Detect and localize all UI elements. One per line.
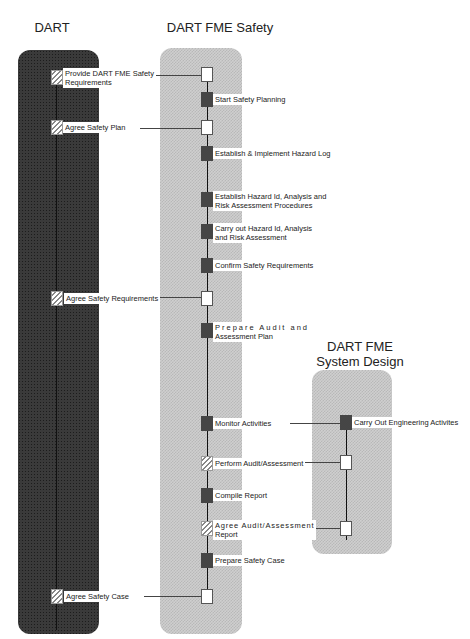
design-box-engineering-activities[interactable] bbox=[340, 415, 352, 430]
dart-lifeline bbox=[56, 70, 57, 630]
activity-box-agree-safety-requirements[interactable] bbox=[51, 291, 63, 306]
activity-label-agree-safety-plan: Agree Safety Plan bbox=[63, 122, 127, 133]
safety-box-confirm-requirements[interactable] bbox=[201, 258, 213, 273]
safety-box-agree-audit-report[interactable] bbox=[201, 521, 213, 536]
safety-label-carry-out-hazard-id: Carry out Hazard Id, Analysis and Risk A… bbox=[213, 223, 314, 243]
label-line: Requirements bbox=[65, 78, 154, 87]
safety-box-prepare-safety-case[interactable] bbox=[201, 553, 213, 568]
safety-box-start-safety-planning[interactable] bbox=[201, 92, 213, 107]
lane-title-design-line1: DART FME bbox=[320, 339, 400, 354]
activity-box-agree-safety-plan[interactable] bbox=[51, 120, 63, 135]
safety-label-start-safety-planning: Start Safety Planning bbox=[213, 94, 287, 105]
safety-label-perform-audit: Perform Audit/Assessment bbox=[213, 458, 305, 469]
safety-box-carry-out-hazard-id[interactable] bbox=[201, 224, 213, 239]
safety-label-confirm-requirements: Confirm Safety Requirements bbox=[213, 260, 315, 271]
safety-box-hazard-procedures[interactable] bbox=[201, 192, 213, 207]
label-line: and Risk Assessment bbox=[215, 233, 312, 242]
safety-box-prepare-audit-plan[interactable] bbox=[201, 323, 213, 338]
label-line: Establish Hazard Id, Analysis and bbox=[215, 192, 326, 201]
activity-label-agree-safety-requirements: Agree Safety Requirements bbox=[64, 293, 160, 304]
safety-box-safety-plan[interactable] bbox=[201, 120, 213, 135]
lane-dart bbox=[18, 50, 99, 634]
safety-box-monitor-activities[interactable] bbox=[201, 416, 213, 431]
connector-agree-safety-plan bbox=[140, 128, 201, 129]
safety-label-prepare-audit-plan: Prepare Audit and Assessment Plan bbox=[213, 322, 311, 342]
design-label-engineering-activities: Carry Out Engineering Activites bbox=[352, 417, 460, 428]
connector-agree-safety-case bbox=[144, 596, 201, 597]
label-line: Assessment Plan bbox=[215, 332, 309, 341]
activity-box-agree-safety-case[interactable] bbox=[51, 589, 63, 604]
safety-label-compile-report: Compile Report bbox=[213, 490, 269, 501]
lane-title-dart: DART bbox=[22, 20, 82, 35]
connector-monitor-activities bbox=[290, 423, 340, 424]
label-line: Agree Audit/Assessment bbox=[215, 521, 314, 530]
design-box-audit-report-input[interactable] bbox=[340, 521, 352, 536]
activity-label-agree-safety-case: Agree Safety Case bbox=[64, 591, 131, 602]
safety-label-monitor-activities: Monitor Activities bbox=[213, 418, 273, 429]
lane-title-design-line2: System Design bbox=[310, 354, 410, 369]
activity-box-provide-requirements[interactable] bbox=[51, 70, 63, 85]
label-line: Prepare Audit and bbox=[215, 323, 309, 332]
label-line: Carry out Hazard Id, Analysis bbox=[215, 224, 312, 233]
label-line: Report bbox=[215, 530, 314, 539]
safety-label-prepare-safety-case: Prepare Safety Case bbox=[213, 555, 287, 566]
safety-label-hazard-log: Establish & Implement Hazard Log bbox=[213, 148, 332, 159]
label-line: Provide DART FME Safety bbox=[65, 69, 154, 78]
safety-box-requirements-agreed[interactable] bbox=[201, 291, 213, 306]
activity-label-provide-requirements: Provide DART FME Safety Requirements bbox=[63, 68, 156, 88]
lane-title-safety: DART FME Safety bbox=[160, 20, 280, 35]
safety-label-hazard-procedures: Establish Hazard Id, Analysis and Risk A… bbox=[213, 191, 328, 211]
safety-label-agree-audit-report: Agree Audit/Assessment Report bbox=[213, 520, 316, 540]
design-box-audit-input[interactable] bbox=[340, 455, 352, 470]
safety-box-hazard-log[interactable] bbox=[201, 146, 213, 161]
safety-box-compile-report[interactable] bbox=[201, 488, 213, 503]
safety-box-perform-audit[interactable] bbox=[201, 456, 213, 471]
safety-box-safety-case-agreed[interactable] bbox=[201, 589, 213, 604]
label-line: Risk Assessment Procedures bbox=[215, 201, 326, 210]
safety-box-receive-requirements[interactable] bbox=[201, 67, 213, 82]
